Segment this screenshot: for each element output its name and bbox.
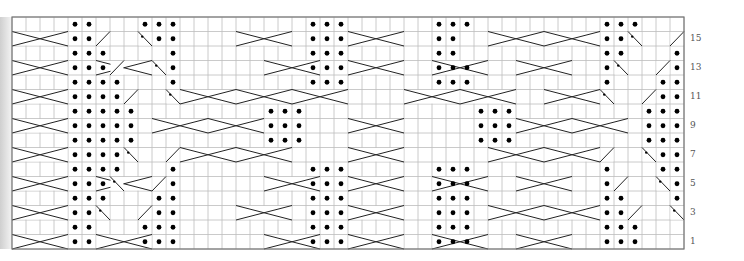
row-label-13: 13 [690,62,710,72]
knitting-chart [0,0,744,261]
row-label-9: 9 [690,120,710,130]
row-label-7: 7 [690,149,710,159]
row-label-15: 15 [690,33,710,43]
row-label-3: 3 [690,207,710,217]
row-label-5: 5 [690,178,710,188]
row-label-11: 11 [690,91,710,101]
row-label-1: 1 [690,236,710,246]
